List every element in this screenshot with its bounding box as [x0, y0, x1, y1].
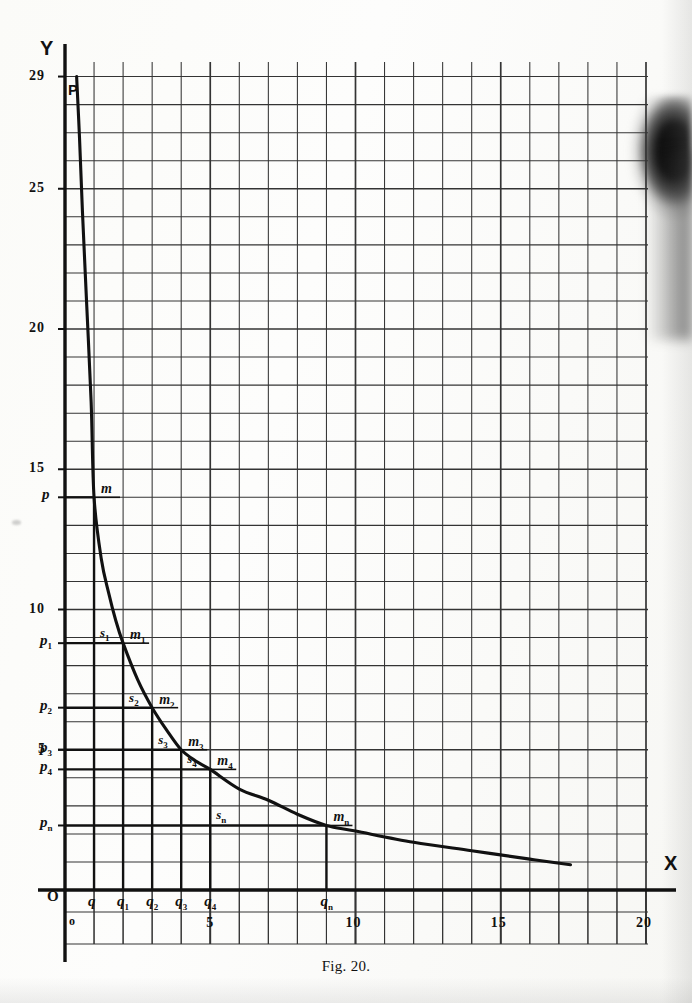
curve-point-m: m [101, 482, 112, 496]
step-corner-sn: sn [216, 808, 226, 825]
x-tick-qn: qn [320, 894, 333, 912]
y-tick-pn: pn [40, 815, 53, 833]
x-tick-q1: q1 [117, 894, 129, 912]
x-axis-label: X [664, 853, 677, 873]
x-scale-15: 15 [491, 916, 507, 930]
y-tick-p4: p4 [40, 759, 52, 777]
curve-start-label-P: P [68, 82, 78, 97]
step-corner-s1: s1 [100, 626, 110, 643]
step-corner-s2: s2 [129, 691, 139, 708]
graph-drawing [0, 0, 692, 1003]
x-tick-q4: q4 [204, 894, 216, 912]
curve-point-m3: m3 [188, 735, 203, 752]
curve-point-mn: mn [333, 810, 349, 827]
y-tick-10: 10 [29, 602, 45, 616]
hyperbola-curve [77, 77, 571, 865]
y-tick-p1: p1 [40, 633, 52, 651]
x-scale-5: 5 [206, 916, 214, 930]
x-tick-q: q [88, 894, 96, 909]
step-corner-s3: s3 [158, 733, 168, 750]
figure-20: Y X O o P 29252015105 pp1p2p3p4pn qq1q2q… [0, 0, 692, 1003]
x-tick-q2: q2 [146, 894, 158, 912]
y-axis-label: Y [40, 38, 53, 58]
curve-point-m1: m1 [130, 628, 145, 645]
x-scale-10: 10 [346, 916, 362, 930]
curve-point-m2: m2 [159, 693, 174, 710]
figure-caption: Fig. 20. [0, 958, 692, 975]
curve-point-m4: m4 [217, 754, 232, 771]
y-tick-15: 15 [29, 461, 45, 475]
x-tick-q3: q3 [175, 894, 187, 912]
y-tick-p2: p2 [40, 698, 52, 716]
x-scale-20: 20 [636, 916, 652, 930]
y-tick-20: 20 [29, 321, 45, 335]
y-tick-25: 25 [29, 181, 45, 195]
step-corner-s4: s4 [187, 752, 197, 769]
origin-label: O [47, 889, 59, 904]
y-tick-29: 29 [29, 69, 45, 83]
y-tick-p3: p3 [40, 740, 52, 758]
scale-origin-label: o [69, 915, 75, 927]
y-tick-p: p [42, 487, 50, 502]
